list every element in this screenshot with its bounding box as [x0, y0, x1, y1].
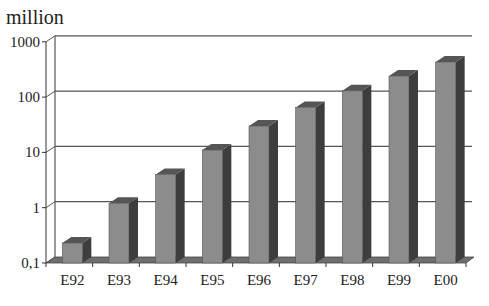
- y-tick-label: 0,1: [21, 255, 40, 271]
- bar-E92: [62, 237, 91, 263]
- bar-E99: [389, 70, 418, 263]
- y-tick-label: 10: [25, 144, 40, 160]
- x-tick-label: E98: [340, 272, 364, 288]
- bar-E97: [296, 101, 325, 263]
- y-tick-label: 1000: [10, 34, 40, 50]
- x-tick-label: E95: [200, 272, 224, 288]
- x-tick-label: E92: [60, 272, 84, 288]
- x-tick-label: E93: [107, 272, 131, 288]
- bar-E98: [342, 85, 371, 263]
- bar-E00: [436, 56, 465, 263]
- x-tick-label: E00: [434, 272, 458, 288]
- y-tick-label: 100: [18, 89, 41, 105]
- x-tick-label: E94: [154, 272, 179, 288]
- x-tick-label: E97: [294, 272, 319, 288]
- x-tick-label: E99: [387, 272, 411, 288]
- bar-chart: 0,11101001000E92E93E94E95E96E97E98E99E00: [0, 0, 489, 306]
- bar-E94: [156, 168, 185, 263]
- bar-E95: [202, 144, 231, 263]
- bars: [62, 56, 464, 263]
- bar-E96: [249, 120, 278, 263]
- y-tick-label: 1: [33, 200, 41, 216]
- bar-E93: [109, 197, 138, 263]
- x-tick-label: E96: [247, 272, 272, 288]
